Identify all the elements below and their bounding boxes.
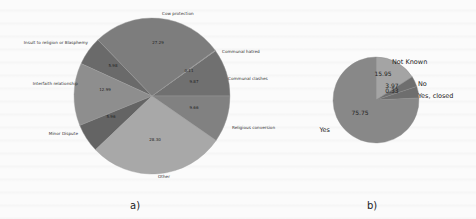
label-yes: Yes xyxy=(319,126,331,134)
pie-chart-a: Communal clashes9.87Communal hatred0.11C… xyxy=(24,11,276,179)
label-not-known: Not Known xyxy=(392,58,427,66)
value-communal-hatred: 0.11 xyxy=(185,68,194,73)
label-other: Other xyxy=(158,174,170,179)
value-minor-dispute: 5.96 xyxy=(107,114,116,119)
label-insult-to-religion-or-blasphemy: Insult to religion or Blasphemy xyxy=(24,40,89,45)
value-religious-conversion: 9.66 xyxy=(190,105,199,110)
value-yes-closed: 0.33 xyxy=(385,87,399,94)
value-not-known: 15.95 xyxy=(374,70,391,77)
label-religious-conversion: Religious conversion xyxy=(232,125,275,130)
label-no: No xyxy=(418,80,427,88)
value-cow-protection: 27.29 xyxy=(152,40,164,45)
label-minor-dispute: Minor Dispute xyxy=(49,131,79,136)
value-yes: 75.75 xyxy=(351,109,368,116)
label-interfaith-relationship: Interfaith relationship xyxy=(33,81,79,86)
label-communal-hatred: Communal hatred xyxy=(222,49,260,54)
label-yes-closed: Yes, closed xyxy=(417,92,454,100)
label-cow-protection: Cow protection xyxy=(162,11,194,16)
label-communal-clashes: Communal clashes xyxy=(228,76,268,81)
pie-chart-b: Not Known15.95No3.97Yes, closed0.33Yes75… xyxy=(319,57,454,143)
caption-a: a) xyxy=(130,200,140,211)
value-interfaith-relationship: 12.99 xyxy=(99,87,111,92)
value-communal-clashes: 9.87 xyxy=(190,79,199,84)
value-insult-to-religion-or-blasphemy: 5.98 xyxy=(109,63,118,68)
value-other: 28.30 xyxy=(149,137,161,142)
caption-b: b) xyxy=(367,200,377,211)
figure: Communal clashes9.87Communal hatred0.11C… xyxy=(0,0,476,219)
